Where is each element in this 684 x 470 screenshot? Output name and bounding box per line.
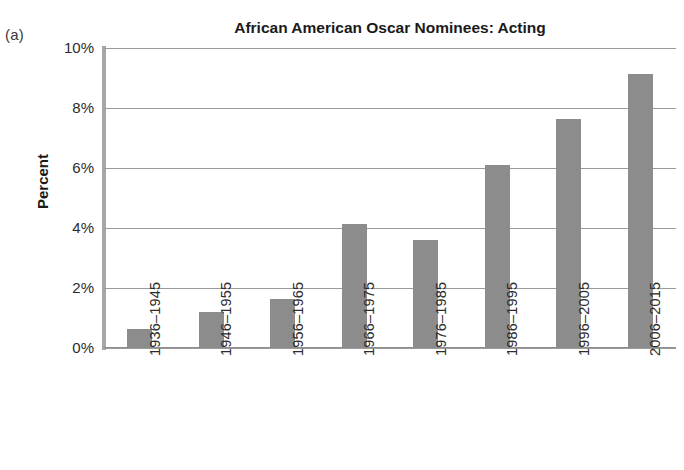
x-axis-tick-label: 1986–1995	[504, 282, 520, 356]
y-axis-title: Percent	[34, 137, 51, 227]
chart-title: African American Oscar Nominees: Acting	[104, 19, 676, 37]
x-axis-tick-label: 1966–1975	[361, 282, 377, 356]
panel-label: (a)	[5, 26, 24, 43]
x-axis-tick-label: 1996–2005	[576, 282, 592, 356]
y-axis-tick-label: 0%	[34, 339, 94, 356]
x-axis-tick-label: 1976–1985	[433, 282, 449, 356]
x-axis-tick-label: 1946–1955	[218, 282, 234, 356]
figure-panel: (a) African American Oscar Nominees: Act…	[0, 0, 684, 470]
y-axis-tick-label: 2%	[34, 279, 94, 296]
y-axis-tick-label: 6%	[34, 159, 94, 176]
y-axis-tick-label: 8%	[34, 99, 94, 116]
x-axis-tick-label: 2006–2015	[647, 282, 663, 356]
y-axis-tick-label: 10%	[34, 39, 94, 56]
y-axis-tick-label: 4%	[34, 219, 94, 236]
x-axis-tick-label: 1956–1965	[290, 282, 306, 356]
x-axis-tick-label: 1936–1945	[147, 282, 163, 356]
